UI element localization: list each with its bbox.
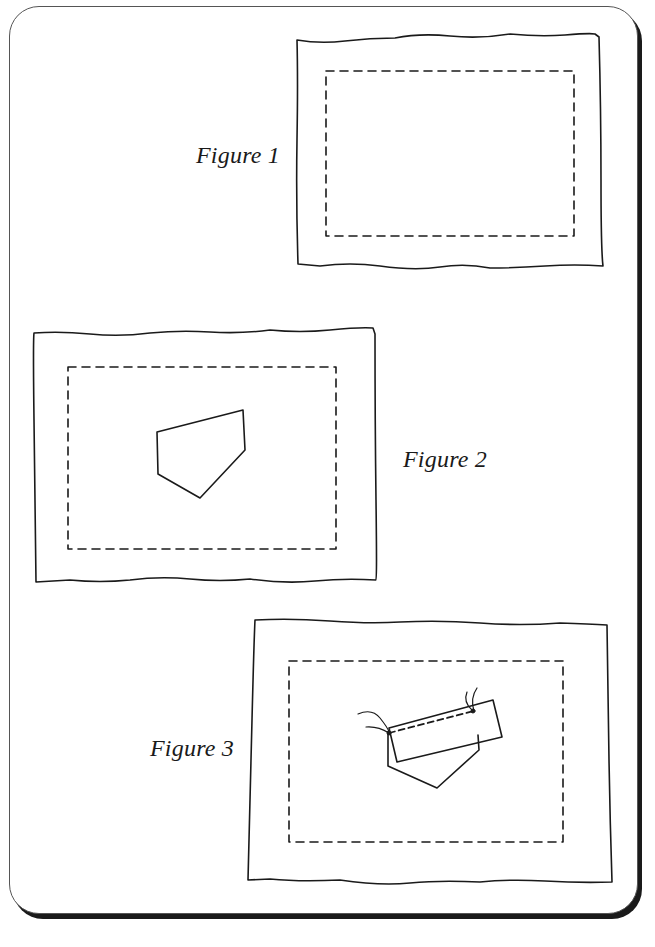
figure-3-thread-right-2: [473, 688, 477, 711]
figure-2-fabric-outline: [34, 328, 377, 582]
figure-3-drawing: [248, 619, 612, 884]
figure-2-pentagon-patch: [157, 410, 245, 498]
figure-3-thread-left-1: [358, 712, 389, 732]
figure-3-fabric-outline: [248, 619, 612, 884]
diagram-canvas: [0, 0, 655, 947]
figure-2-drawing: [34, 328, 377, 582]
figure-3-thread-left-2: [366, 727, 389, 733]
figure-2-stitch-line: [68, 367, 336, 549]
figure-1-fabric-outline: [297, 34, 603, 269]
figure-3-knot-left: [387, 731, 391, 735]
figure-1-label: Figure 1: [196, 142, 280, 169]
figure-3-knot-right: [471, 709, 475, 713]
figure-3-strip-stitch-line: [389, 711, 474, 733]
figure-1-stitch-line: [326, 71, 574, 236]
figure-3-stitch-line: [289, 661, 563, 842]
figure-2-label: Figure 2: [403, 446, 487, 473]
figure-3-pentagon-patch: [388, 732, 479, 788]
figure-3-label: Figure 3: [150, 735, 234, 762]
figure-1-drawing: [297, 34, 603, 269]
figure-3-cover-strip: [389, 700, 502, 762]
